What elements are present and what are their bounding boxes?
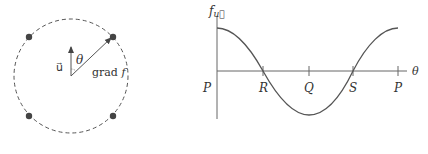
y-label-sub: u⃗	[213, 9, 224, 19]
y-axis-label: fu⃗	[208, 4, 225, 19]
grad-f-label: grad f	[92, 66, 127, 79]
vector-u-label: u⃗	[56, 61, 63, 74]
tick-label-r: R	[258, 81, 268, 95]
grad-text: grad	[92, 66, 121, 79]
point-bottom-right	[110, 113, 116, 119]
angle-arc	[71, 69, 76, 71]
tick-label-p-end: P	[393, 81, 403, 95]
tick-label-s: S	[349, 81, 357, 95]
origin-label-p: P	[202, 81, 212, 95]
tick-label-q: Q	[304, 81, 314, 95]
point-top-left	[26, 34, 32, 40]
graph: fu⃗ θ P R Q S P	[202, 4, 419, 119]
figure: u⃗ θ grad f fu⃗ θ P R Q S P	[0, 0, 428, 154]
point-top-right	[110, 34, 116, 40]
grad-var: f	[120, 66, 127, 79]
circle-diagram: u⃗ θ grad f	[14, 19, 128, 133]
theta-label: θ	[76, 53, 84, 67]
x-axis-label: θ	[412, 65, 419, 78]
point-bottom-left	[26, 113, 32, 119]
